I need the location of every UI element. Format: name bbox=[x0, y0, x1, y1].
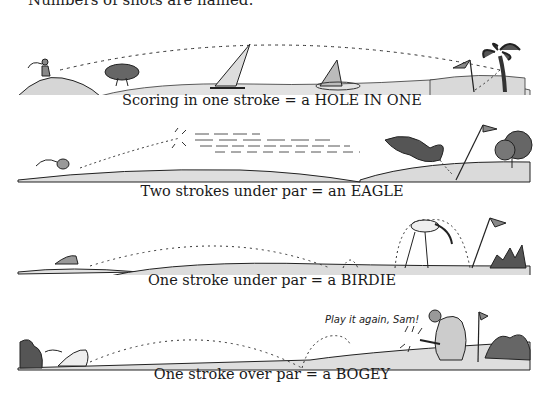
caption-hole-in-one: Scoring in one stroke = a HOLE IN ONE bbox=[0, 92, 544, 108]
shrub-icon bbox=[490, 245, 526, 268]
caption-birdie: One stroke under par = a BIRDIE bbox=[0, 272, 544, 288]
speech-bubble: Play it again, Sam! bbox=[325, 314, 419, 325]
eagle-icon bbox=[385, 136, 443, 161]
bush-icon bbox=[20, 340, 42, 368]
bogey-illustration bbox=[0, 300, 544, 372]
panel-hole-in-one: Scoring in one stroke = a HOLE IN ONE bbox=[0, 20, 544, 115]
speed-lines bbox=[195, 134, 360, 152]
intro-text: Numbers of shots are named: bbox=[28, 0, 253, 9]
sailboat-icon bbox=[210, 44, 250, 88]
caption-eagle: Two strokes under par = an EAGLE bbox=[0, 183, 544, 199]
ball-impact-icon bbox=[172, 128, 186, 148]
golfer-icon bbox=[55, 256, 78, 264]
golfer-icon bbox=[28, 59, 50, 76]
panel-eagle: Two strokes under par = an EAGLE bbox=[0, 110, 544, 200]
hole-in-one-illustration bbox=[0, 20, 544, 95]
golfer-icon bbox=[36, 159, 69, 169]
panel-bogey: Play it again, Sam! One stroke over par … bbox=[0, 300, 544, 395]
shrub-icon bbox=[485, 335, 530, 360]
eagle-illustration bbox=[0, 110, 544, 185]
impact-icon bbox=[400, 326, 422, 352]
bird-icon bbox=[405, 220, 452, 268]
caption-bogey: One stroke over par = a BOGEY bbox=[0, 366, 544, 382]
panel-birdie: One stroke under par = a BIRDIE bbox=[0, 210, 544, 295]
birdie-illustration bbox=[0, 210, 544, 275]
golfer-in-trap-icon bbox=[45, 350, 88, 366]
bush-icon bbox=[105, 64, 139, 86]
